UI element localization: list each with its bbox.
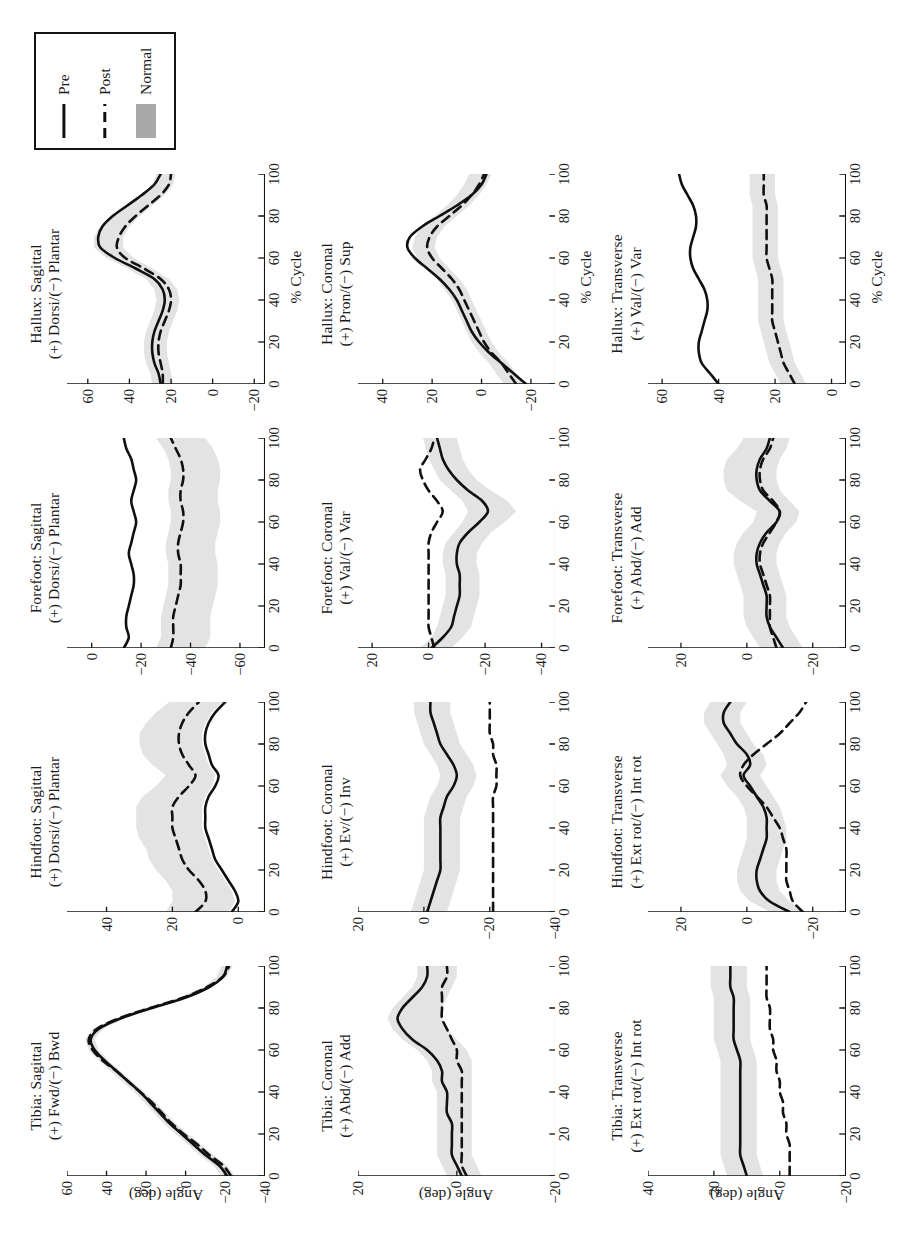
y-tick-label: −40	[182, 653, 199, 676]
x-tick-label: 60	[556, 251, 573, 266]
x-tick-label: 80	[556, 737, 573, 752]
x-tick-label: 20	[266, 335, 283, 350]
y-axis: 200−20	[648, 912, 846, 946]
x-tick-label: 100	[847, 955, 864, 977]
x-tick-label: 20	[266, 599, 283, 614]
shaded-band	[136, 104, 156, 138]
x-tick-label: 40	[266, 1085, 283, 1100]
panel-hallux-transverse: Hallux: Transverse (+) Val/(−) Var604020…	[607, 170, 888, 418]
x-tick-label: 40	[266, 821, 283, 836]
x-tick-label: 60	[556, 515, 573, 530]
normal-band	[412, 174, 523, 384]
panel-grid: Tibia: Sagittal (+) Fwd/(−) Bwd6040200−2…	[26, 170, 888, 1210]
plot-wrap: 200−20−40Angle (deg)	[358, 698, 556, 946]
panel-title: Tibia: Transverse (+) Ext rot/(−) Int ro…	[607, 962, 648, 1210]
plot-area	[358, 702, 556, 912]
plot-svg	[67, 702, 265, 912]
x-tick-label: 60	[847, 515, 864, 530]
panel-hindfoot-sagittal: Hindfoot: Sagittal (+) Dorsi/(−) Plantar…	[26, 698, 307, 946]
plot-svg	[648, 438, 846, 648]
x-tick-label: 80	[266, 473, 283, 488]
y-axis: 0−20−40−60	[67, 648, 265, 682]
plot-area	[648, 174, 846, 384]
legend-label: Normal	[137, 48, 155, 95]
y-tick-label: 40	[121, 389, 138, 404]
x-tick-label: 0	[556, 380, 573, 387]
x-tick-label: 0	[266, 380, 283, 387]
x-tick-label: 60	[266, 251, 283, 266]
y-tick-label: 40	[98, 1181, 115, 1196]
y-tick-label: 40	[374, 389, 391, 404]
y-axis: 200−20−40	[358, 648, 556, 682]
x-tick-label: 0	[847, 644, 864, 651]
x-tick-label: 60	[847, 779, 864, 794]
plot-svg	[67, 438, 265, 648]
x-tick-label: 60	[556, 1043, 573, 1058]
panel-hindfoot-transverse: Hindfoot: Transverse (+) Ext rot/(−) Int…	[607, 698, 888, 946]
plot-svg	[648, 174, 846, 384]
x-tick-label: 20	[556, 863, 573, 878]
y-tick-label: −40	[256, 1181, 273, 1204]
plot-svg	[67, 966, 265, 1176]
x-tick-label: 80	[847, 737, 864, 752]
x-tick-label: 80	[266, 209, 283, 224]
plot-svg	[358, 966, 556, 1176]
x-tick-label: 20	[847, 335, 864, 350]
x-tick-label: 20	[266, 863, 283, 878]
y-axis: 40200−20	[358, 384, 556, 418]
plot-wrap: 0−20−40−60Angle (deg)	[67, 434, 265, 682]
panel-tibia-sagittal: Tibia: Sagittal (+) Fwd/(−) Bwd6040200−2…	[26, 962, 307, 1210]
legend-label: Post	[96, 68, 114, 95]
plot-area	[67, 438, 265, 648]
x-tick-label: 40	[556, 557, 573, 572]
plot-wrap: 200−20Angle (deg)	[648, 698, 846, 946]
x-tick-label: 0	[847, 380, 864, 387]
normal-band	[387, 966, 481, 1176]
x-tick-label: 40	[847, 557, 864, 572]
plot-svg	[358, 174, 556, 384]
series-line-post	[767, 966, 791, 1176]
gait-kinematics-figure: Tibia: Sagittal (+) Fwd/(−) Bwd6040200−2…	[0, 0, 915, 1248]
x-axis: 020406080100	[846, 174, 868, 384]
x-tick-label: 60	[266, 515, 283, 530]
dashed-line-icon	[97, 104, 112, 138]
x-axis: 020406080100	[265, 438, 287, 648]
x-tick-label: 80	[847, 473, 864, 488]
x-axis: 020406080100	[265, 702, 287, 912]
y-tick-label: 20	[673, 917, 690, 932]
x-tick-label: 0	[266, 644, 283, 651]
y-tick-label: 20	[349, 917, 366, 932]
panel-forefoot-sagittal: Forefoot: Sagittal (+) Dorsi/(−) Plantar…	[26, 434, 307, 682]
axis-spines	[67, 966, 265, 1176]
plot-area	[648, 702, 846, 912]
x-tick-label: 80	[266, 737, 283, 752]
x-tick-label: 40	[556, 293, 573, 308]
panel-title: Hallux: Sagittal (+) Dorsi/(−) Plantar	[26, 170, 67, 418]
normal-band	[85, 966, 235, 1176]
plot-area	[358, 966, 556, 1176]
y-axis: 6040200	[648, 384, 846, 418]
plot-area	[648, 966, 846, 1176]
x-axis: 020406080100	[555, 174, 577, 384]
panel-hallux-coronal: Hallux: Coronal (+) Pron/(−) Sup40200−20…	[317, 170, 598, 418]
y-tick-label: −20	[805, 653, 822, 676]
y-tick-label: 20	[164, 917, 181, 932]
panel-title: Forefoot: Coronal (+) Val/(−) Var	[317, 434, 358, 682]
y-tick-label: 0	[420, 653, 437, 660]
x-tick-label: 100	[847, 163, 864, 185]
normal-band	[711, 966, 764, 1176]
y-tick-label: 0	[823, 389, 840, 396]
x-tick-label: 100	[266, 955, 283, 977]
x-axis: 020406080100	[265, 966, 287, 1176]
plot-wrap: 200−20Angle (deg)	[358, 962, 556, 1210]
legend-item-post: Post	[90, 44, 120, 138]
x-tick-label: 80	[266, 1001, 283, 1016]
plot-wrap: 200−20−40Angle (deg)	[358, 434, 556, 682]
x-tick-label: 20	[556, 1127, 573, 1142]
plot-area	[648, 438, 846, 648]
plot-wrap: 6040200−20−40Angle (deg)	[67, 962, 265, 1210]
panel-title: Hallux: Transverse (+) Val/(−) Var	[607, 170, 648, 418]
x-tick-label: 100	[847, 427, 864, 449]
y-tick-label: −20	[481, 917, 498, 940]
x-tick-label: 0	[556, 908, 573, 915]
